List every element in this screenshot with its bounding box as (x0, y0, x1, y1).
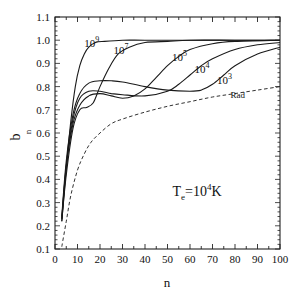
plot-area-border (55, 17, 280, 249)
curve-10e3 (62, 47, 280, 216)
y-axis-label-main: b (8, 134, 23, 141)
curve-10e5 (62, 40, 280, 219)
temperature-label: Te=104K (173, 182, 222, 202)
y-tick-label: 1.1 (36, 11, 50, 23)
y-tick-label: 0.2 (36, 220, 50, 232)
chart: 01020304050607080901000.10.20.30.40.50.6… (0, 0, 303, 297)
x-axis-label: n (164, 275, 171, 290)
x-tick-label: 30 (117, 253, 129, 265)
x-tick-label: 70 (207, 253, 219, 265)
y-axis-label-subscript: n (23, 129, 33, 134)
y-tick-label: 0.4 (36, 173, 50, 185)
y-tick-label: 0.8 (36, 81, 50, 93)
curve-label: 105 (172, 49, 187, 63)
temperature-annotation: Te=104K (173, 182, 222, 202)
curve-label: 104 (195, 61, 210, 75)
y-tick-label: 0.5 (36, 150, 50, 162)
curve-10e4 (62, 43, 280, 219)
curve-10e9 (62, 40, 280, 221)
axis-ticks (55, 17, 280, 249)
x-tick-label: 50 (162, 253, 174, 265)
curve-label: Rad (231, 90, 246, 100)
x-tick-label: 40 (140, 253, 152, 265)
y-tick-label: 0.6 (36, 127, 50, 139)
plot-frame (55, 17, 280, 249)
y-tick-label: 1.0 (36, 34, 50, 46)
y-axis-label: b n (8, 129, 33, 140)
x-tick-label: 100 (272, 253, 289, 265)
curve-10e7 (62, 40, 280, 221)
x-tick-label: 0 (52, 253, 58, 265)
curve-label: 103 (217, 72, 232, 86)
x-tick-label: 80 (230, 253, 242, 265)
x-tick-label: 20 (95, 253, 107, 265)
curves (62, 40, 280, 247)
axis-tick-labels: 01020304050607080901000.10.20.30.40.50.6… (36, 11, 289, 265)
x-tick-label: 10 (72, 253, 84, 265)
curve-label: 109 (84, 35, 99, 49)
x-tick-label: 60 (185, 253, 197, 265)
x-tick-label: 90 (252, 253, 264, 265)
y-tick-label: 0.7 (36, 104, 50, 116)
y-tick-label: 0.9 (36, 57, 50, 69)
curve-label: 107 (114, 42, 129, 56)
y-tick-label: 0.1 (36, 243, 50, 255)
curve-rad (62, 87, 280, 247)
y-tick-label: 0.3 (36, 197, 50, 209)
